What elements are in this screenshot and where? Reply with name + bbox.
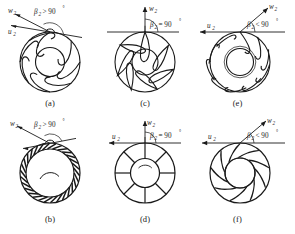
- label-beta2-d: β: [149, 132, 154, 140]
- label-u2-sub-e: 2: [212, 25, 215, 31]
- label-w2-sub-e: 2: [275, 6, 278, 12]
- label-u2-a: u: [8, 28, 12, 36]
- caption-f: (f): [185, 214, 290, 224]
- label-angle-deg-f: °: [276, 129, 278, 135]
- label-angle-deg-b: °: [63, 118, 65, 124]
- blade: [28, 193, 38, 194]
- blade: [53, 146, 62, 149]
- label-beta2-sub-a: 2: [39, 11, 42, 17]
- label-beta2-sub-e: 2: [252, 24, 255, 30]
- panel-f: w 2 u 2 β 2 < 90 ° (f): [190, 117, 295, 234]
- label-beta2-sub-d: 2: [155, 135, 158, 141]
- label-u2-f: u: [208, 133, 212, 141]
- blade: [74, 178, 76, 188]
- impeller-d: [115, 143, 175, 203]
- label-angle-rel-f: < 90: [256, 132, 269, 140]
- blade: [255, 169, 266, 188]
- label-angle-rel-a: > 90: [43, 8, 56, 16]
- label-angle-rel-b: > 90: [43, 121, 56, 129]
- caption-d: (d): [95, 214, 195, 224]
- blade: [124, 183, 135, 194]
- label-beta2-a: β: [33, 8, 38, 16]
- panel-e: w 2 u 2 β 2 < 90 ° (e): [190, 0, 295, 117]
- label-beta2-sub-c: 2: [155, 24, 158, 30]
- caption-c: (c): [95, 98, 195, 108]
- label-beta2-sub-f: 2: [252, 135, 255, 141]
- caption-e: (e): [185, 98, 290, 108]
- blade: [38, 197, 47, 200]
- panel-c: w 2 β 2 = 90 ° (c): [95, 0, 195, 117]
- label-u2-sub-a: 2: [13, 31, 16, 37]
- label-angle-deg-e: °: [276, 18, 278, 24]
- impeller-c: [115, 32, 175, 92]
- figure-centrifugal-impeller-types: w 2 u 2 β 2 > 90 ° (a): [0, 0, 295, 234]
- impeller-a: [20, 32, 80, 92]
- label-u2-sub-f: 2: [213, 136, 216, 142]
- label-w2-sub-f: 2: [273, 120, 276, 126]
- label-u2-d: u: [112, 133, 116, 141]
- label-w2-sub-c: 2: [155, 8, 158, 14]
- panel-d: w 2 u 2 β 2 = 90 ° (d): [95, 117, 195, 234]
- label-w2-c: w: [149, 5, 154, 13]
- caption-b: (b): [0, 214, 100, 224]
- label-w2-sub-d: 2: [153, 122, 156, 128]
- label-angle-rel-d: = 90: [159, 132, 172, 140]
- label-beta2-c: β: [149, 21, 154, 29]
- label-w2-sub-b: 2: [16, 123, 19, 129]
- panel-b: w 2 β 2 > 90 ° (b): [0, 117, 100, 234]
- blade: [155, 183, 166, 194]
- blade: [215, 188, 237, 190]
- label-angle-rel-c: = 90: [159, 21, 172, 29]
- blade: [24, 158, 26, 168]
- label-w2-sub-a: 2: [14, 10, 17, 16]
- label-angle-deg-a: °: [63, 5, 65, 11]
- blade: [155, 152, 166, 163]
- label-beta2-b: β: [33, 121, 38, 129]
- blade: [221, 150, 225, 171]
- blade: [62, 152, 72, 153]
- label-w2-e: w: [269, 3, 274, 11]
- blade: [57, 149, 67, 150]
- impeller-e: [206, 32, 270, 92]
- label-angle-rel-e: < 90: [256, 21, 269, 29]
- label-u2-sub-d: 2: [117, 136, 120, 142]
- label-beta2-sub-b: 2: [39, 124, 42, 130]
- label-u2-e: u: [207, 22, 211, 30]
- blade: [33, 196, 43, 197]
- label-angle-deg-c: °: [179, 18, 181, 24]
- blade: [238, 150, 258, 157]
- label-angle-deg-d: °: [179, 129, 181, 135]
- label-beta2-f: β: [246, 132, 251, 140]
- label-w2-a: w: [8, 7, 13, 15]
- label-w2-b: w: [10, 120, 15, 128]
- impeller-b: [20, 143, 80, 203]
- impeller-f: [210, 143, 270, 203]
- label-w2-d: w: [147, 119, 152, 127]
- blade: [124, 152, 135, 163]
- caption-a: (a): [0, 98, 100, 108]
- panel-a: w 2 u 2 β 2 > 90 ° (a): [0, 0, 100, 117]
- label-w2-f: w: [267, 117, 272, 125]
- label-beta2-e: β: [246, 21, 251, 29]
